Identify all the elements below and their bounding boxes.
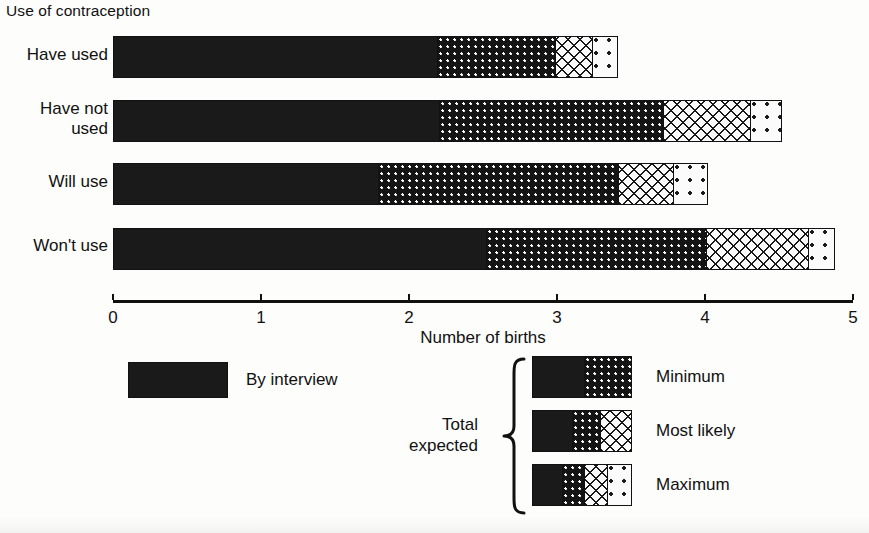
x-axis-tick <box>852 294 854 300</box>
bar-segment-by-interview <box>114 164 378 204</box>
category-label-wont-use: Won't use <box>0 236 108 256</box>
legend-group-total-expected: Total expected Minimum Mos <box>490 352 820 522</box>
category-label-have-not-used: Have not used <box>0 99 108 139</box>
legend-swatch-minimum <box>532 356 632 398</box>
x-axis-ticks: 012345 <box>113 300 853 330</box>
bar-segment-maximum <box>808 229 835 269</box>
legend-label-most-likely: Most likely <box>656 421 735 441</box>
x-axis-label: Number of births <box>113 328 853 348</box>
legend-swatch-maximum <box>532 464 632 506</box>
legend-label-maximum: Maximum <box>656 475 730 495</box>
bar-segment-by-interview <box>114 37 437 77</box>
bar-segment-by-interview <box>114 101 439 141</box>
bar-segment-minimum <box>378 164 618 204</box>
x-axis-tick-label: 4 <box>700 308 709 328</box>
bar-segment-most-likely <box>706 229 808 269</box>
x-axis-tick-label: 3 <box>552 308 561 328</box>
bar-segment-maximum <box>673 164 707 204</box>
bar-segment-most-likely <box>618 164 673 204</box>
chart-legend: By interview Total expected Minimum <box>0 352 869 522</box>
page-edge-shadow <box>0 517 869 533</box>
plot-area <box>113 0 869 300</box>
legend-label-minimum: Minimum <box>656 367 725 387</box>
bar-segment-most-likely <box>555 37 592 77</box>
table-row[interactable] <box>113 36 618 78</box>
bar-segment-minimum <box>439 101 663 141</box>
legend-group-label: Total expected <box>338 414 478 456</box>
x-axis-tick-label: 0 <box>108 308 117 328</box>
legend-swatch-by-interview <box>128 362 228 398</box>
x-axis-tick <box>408 294 410 300</box>
legend-label-by-interview: By interview <box>246 370 338 390</box>
bar-segment-maximum <box>750 101 781 141</box>
x-axis-tick <box>704 294 706 300</box>
table-row[interactable] <box>113 228 835 270</box>
category-axis-labels: Have used Have not used Will use Won't u… <box>0 0 108 300</box>
x-axis-tick <box>260 294 262 300</box>
legend-item-by-interview[interactable]: By interview <box>128 362 228 398</box>
curly-brace-icon <box>490 356 530 516</box>
x-axis-tick <box>112 294 114 300</box>
bar-segment-minimum <box>437 37 555 77</box>
x-axis-tick-label: 1 <box>256 308 265 328</box>
x-axis-tick <box>556 294 558 300</box>
bar-segment-maximum <box>592 37 617 77</box>
legend-item-minimum[interactable]: Minimum <box>532 356 725 398</box>
legend-swatch-most-likely <box>532 410 632 452</box>
legend-item-most-likely[interactable]: Most likely <box>532 410 735 452</box>
table-row[interactable] <box>113 163 708 205</box>
x-axis-tick-label: 5 <box>848 308 857 328</box>
x-axis-tick-label: 2 <box>404 308 413 328</box>
bar-segment-most-likely <box>663 101 750 141</box>
bar-segment-by-interview <box>114 229 486 269</box>
category-label-have-used: Have used <box>0 45 108 65</box>
legend-item-maximum[interactable]: Maximum <box>532 464 730 506</box>
table-row[interactable] <box>113 100 782 142</box>
category-label-will-use: Will use <box>0 172 108 192</box>
chart-figure: Use of contraception Have used Have not … <box>0 0 869 533</box>
bar-segment-minimum <box>486 229 706 269</box>
